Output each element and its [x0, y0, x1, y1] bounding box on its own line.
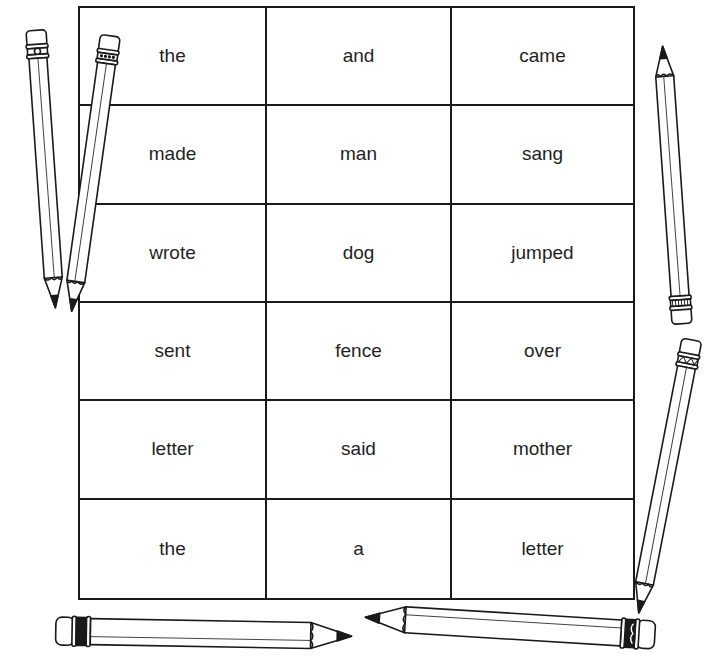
word-cell[interactable]: mother [452, 401, 633, 499]
word-cell[interactable]: the [80, 500, 267, 598]
word-cell[interactable]: over [452, 303, 633, 401]
word-cell[interactable]: dog [267, 205, 452, 303]
word-cell[interactable]: letter [80, 401, 267, 499]
pencil-icon [364, 602, 655, 650]
word-cell[interactable]: sang [452, 106, 633, 204]
word-cell[interactable]: came [452, 8, 633, 106]
word-cell[interactable]: jumped [452, 205, 633, 303]
word-cell[interactable]: said [267, 401, 452, 499]
word-cell[interactable]: sent [80, 303, 267, 401]
word-cell[interactable]: man [267, 106, 452, 204]
worksheet: the and came made man sang wrote dog jum… [0, 0, 717, 669]
word-grid: the and came made man sang wrote dog jum… [78, 6, 635, 600]
word-cell[interactable]: wrote [80, 205, 267, 303]
pencil-icon [628, 338, 703, 615]
pencil-icon [25, 30, 66, 309]
pencil-icon [55, 616, 351, 651]
word-cell[interactable]: fence [267, 303, 452, 401]
pencil-icon [652, 46, 693, 325]
word-cell[interactable]: letter [452, 500, 633, 598]
word-cell[interactable]: and [267, 8, 452, 106]
word-cell[interactable]: a [267, 500, 452, 598]
